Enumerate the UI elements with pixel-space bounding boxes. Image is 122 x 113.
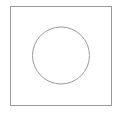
- inner-circle: [33, 27, 90, 84]
- diagram-canvas: [0, 0, 122, 113]
- outer-square: [11, 7, 112, 106]
